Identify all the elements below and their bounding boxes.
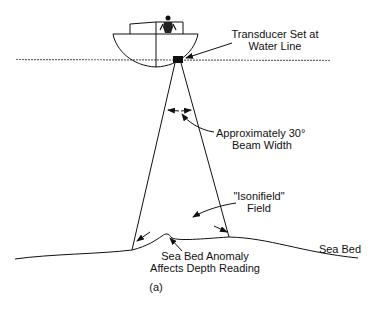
beam-label-line2: Beam Width: [232, 139, 292, 151]
diagram-svg: Transducer Set at Water Line Approximate…: [0, 0, 369, 310]
beam-width-arrows: [168, 110, 214, 132]
beam-label-line1: Approximately 30°: [216, 127, 305, 139]
transducer-label-line2: Water Line: [249, 40, 302, 52]
transducer-pointer: [186, 43, 232, 58]
isonified-label-line1: "Isonifield": [233, 190, 284, 202]
operator-icon: [160, 16, 176, 34]
sea-bed-label: Sea Bed: [319, 243, 361, 255]
isonified-label-line2: Field: [247, 202, 271, 214]
sonar-beam: [132, 63, 229, 250]
anomaly-label-line1: Sea Bed Anomaly: [161, 250, 249, 262]
transducer-icon: [173, 56, 183, 63]
anomaly-label-line2: Affects Depth Reading: [150, 262, 260, 274]
figure-caption: (a): [149, 281, 162, 293]
echo-sounder-diagram: Transducer Set at Water Line Approximate…: [0, 0, 369, 310]
transducer-label-line1: Transducer Set at: [231, 28, 318, 40]
